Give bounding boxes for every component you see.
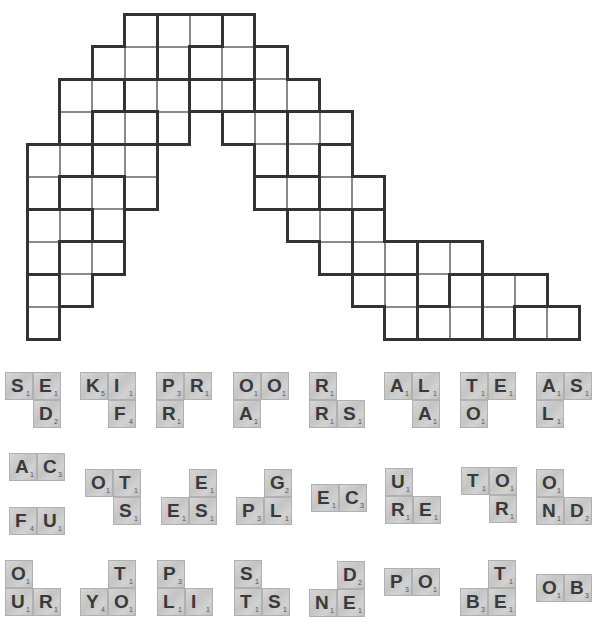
grid-cell[interactable] bbox=[125, 144, 158, 177]
grid-cell[interactable] bbox=[255, 112, 288, 145]
grid-cell[interactable] bbox=[417, 274, 450, 307]
letter-tile[interactable]: E1 bbox=[33, 372, 61, 400]
letter-tile[interactable]: D2 bbox=[337, 561, 365, 589]
grid-cell[interactable] bbox=[352, 242, 385, 275]
letter-tile[interactable]: R1 bbox=[309, 400, 337, 428]
letter-tile[interactable]: A1 bbox=[412, 400, 440, 428]
grid-cell[interactable] bbox=[92, 242, 125, 275]
grid-cell[interactable] bbox=[190, 14, 223, 47]
grid-cell[interactable] bbox=[352, 177, 385, 210]
letter-tile[interactable]: O1 bbox=[460, 400, 488, 428]
letter-tile[interactable]: L1 bbox=[264, 497, 292, 525]
grid-cell[interactable] bbox=[385, 242, 418, 275]
grid-cell[interactable] bbox=[287, 177, 320, 210]
letter-tile[interactable]: N1 bbox=[309, 589, 337, 617]
grid-cell[interactable] bbox=[352, 274, 385, 307]
grid-cell[interactable] bbox=[60, 112, 93, 145]
letter-tile[interactable]: S1 bbox=[234, 560, 262, 588]
grid-cell[interactable] bbox=[287, 79, 320, 112]
grid-cell[interactable] bbox=[255, 79, 288, 112]
letter-tile[interactable]: S1 bbox=[262, 588, 290, 616]
letter-tile[interactable]: T1 bbox=[461, 467, 489, 495]
letter-tile[interactable]: I1 bbox=[108, 372, 136, 400]
letter-tile[interactable]: O1 bbox=[261, 372, 289, 400]
grid-cell[interactable] bbox=[157, 14, 190, 47]
grid-cell[interactable] bbox=[222, 112, 255, 145]
grid-cell[interactable] bbox=[515, 307, 548, 340]
grid-cell[interactable] bbox=[385, 274, 418, 307]
letter-tile[interactable]: D2 bbox=[564, 497, 592, 525]
grid-cell[interactable] bbox=[450, 242, 483, 275]
grid-cell[interactable] bbox=[157, 47, 190, 80]
grid-cell[interactable] bbox=[92, 79, 125, 112]
letter-tile[interactable]: O1 bbox=[233, 372, 261, 400]
letter-tile[interactable]: R1 bbox=[385, 496, 413, 524]
grid-cell[interactable] bbox=[287, 112, 320, 145]
letter-tile[interactable]: G2 bbox=[264, 469, 292, 497]
grid-cell[interactable] bbox=[222, 14, 255, 47]
letter-tile[interactable]: R1 bbox=[309, 372, 337, 400]
letter-tile[interactable]: P3 bbox=[157, 560, 185, 588]
letter-tile[interactable]: Y4 bbox=[80, 588, 108, 616]
letter-tile[interactable]: T1 bbox=[234, 588, 262, 616]
grid-cell[interactable] bbox=[482, 274, 515, 307]
grid-cell[interactable] bbox=[125, 79, 158, 112]
letter-tile[interactable]: B3 bbox=[460, 588, 488, 616]
grid-cell[interactable] bbox=[92, 47, 125, 80]
letter-tile[interactable]: F4 bbox=[9, 507, 37, 535]
grid-cell[interactable] bbox=[27, 274, 60, 307]
letter-tile[interactable]: E1 bbox=[161, 497, 189, 525]
letter-tile[interactable]: K5 bbox=[80, 372, 108, 400]
letter-tile[interactable]: U1 bbox=[5, 588, 33, 616]
letter-tile[interactable]: E1 bbox=[488, 372, 516, 400]
letter-tile[interactable]: A1 bbox=[233, 400, 261, 428]
grid-cell[interactable] bbox=[92, 112, 125, 145]
grid-cell[interactable] bbox=[27, 144, 60, 177]
letter-tile[interactable]: P3 bbox=[384, 568, 412, 596]
grid-cell[interactable] bbox=[320, 209, 353, 242]
letter-tile[interactable]: S1 bbox=[564, 372, 592, 400]
letter-tile[interactable]: T1 bbox=[488, 560, 516, 588]
grid-cell[interactable] bbox=[60, 177, 93, 210]
grid-cell[interactable] bbox=[60, 242, 93, 275]
letter-tile[interactable]: O1 bbox=[536, 574, 564, 602]
grid-cell[interactable] bbox=[320, 242, 353, 275]
grid-cell[interactable] bbox=[255, 47, 288, 80]
letter-tile[interactable]: F4 bbox=[108, 400, 136, 428]
letter-tile[interactable]: L1 bbox=[536, 400, 564, 428]
grid-cell[interactable] bbox=[27, 242, 60, 275]
grid-cell[interactable] bbox=[92, 209, 125, 242]
letter-tile[interactable]: P3 bbox=[236, 497, 264, 525]
grid-cell[interactable] bbox=[352, 209, 385, 242]
letter-tile[interactable]: D2 bbox=[33, 400, 61, 428]
grid-cell[interactable] bbox=[60, 79, 93, 112]
letter-tile[interactable]: U1 bbox=[37, 507, 65, 535]
letter-tile[interactable]: A1 bbox=[536, 372, 564, 400]
grid-cell[interactable] bbox=[92, 177, 125, 210]
grid-cell[interactable] bbox=[482, 307, 515, 340]
letter-tile[interactable]: E1 bbox=[413, 496, 441, 524]
grid-cell[interactable] bbox=[190, 79, 223, 112]
letter-tile[interactable]: N1 bbox=[536, 497, 564, 525]
letter-tile[interactable]: I1 bbox=[185, 588, 213, 616]
grid-cell[interactable] bbox=[125, 47, 158, 80]
grid-cell[interactable] bbox=[27, 209, 60, 242]
letter-tile[interactable]: E1 bbox=[488, 588, 516, 616]
grid-cell[interactable] bbox=[417, 307, 450, 340]
grid-cell[interactable] bbox=[60, 274, 93, 307]
grid-cell[interactable] bbox=[547, 307, 580, 340]
letter-tile[interactable]: E1 bbox=[189, 469, 217, 497]
letter-tile[interactable]: R1 bbox=[489, 495, 517, 523]
grid-cell[interactable] bbox=[385, 307, 418, 340]
letter-tile[interactable]: T1 bbox=[460, 372, 488, 400]
grid-cell[interactable] bbox=[255, 144, 288, 177]
letter-tile[interactable]: O1 bbox=[5, 560, 33, 588]
grid-cell[interactable] bbox=[125, 112, 158, 145]
letter-tile[interactable]: R1 bbox=[156, 400, 184, 428]
letter-tile[interactable]: O1 bbox=[536, 469, 564, 497]
grid-cell[interactable] bbox=[190, 47, 223, 80]
letter-tile[interactable]: T1 bbox=[113, 469, 141, 497]
letter-tile[interactable]: C3 bbox=[339, 484, 367, 512]
grid-cell[interactable] bbox=[450, 274, 483, 307]
grid-cell[interactable] bbox=[320, 144, 353, 177]
